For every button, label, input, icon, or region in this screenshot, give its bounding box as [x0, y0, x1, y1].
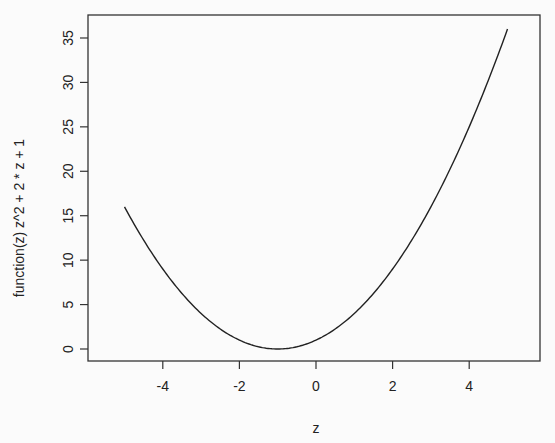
x-tick-label: 0 — [312, 378, 320, 394]
function-curve — [125, 29, 508, 349]
y-tick-label: 30 — [60, 74, 76, 90]
y-tick-label: 15 — [60, 208, 76, 224]
y-tick-label: 20 — [60, 163, 76, 179]
x-axis: -4-2024 — [157, 361, 474, 394]
x-tick-label: 4 — [465, 378, 473, 394]
x-axis-title: z — [313, 420, 320, 436]
x-tick-label: -2 — [233, 378, 246, 394]
y-tick-label: 10 — [60, 252, 76, 268]
y-tick-label: 25 — [60, 119, 76, 135]
y-tick-label: 5 — [60, 300, 76, 308]
y-axis-title: function(z) z^2 + 2 * z + 1 — [11, 139, 27, 298]
plot-box — [88, 15, 540, 361]
chart: -4-2024 05101520253035 z function(z) z^2… — [0, 0, 555, 443]
y-tick-label: 0 — [60, 345, 76, 353]
y-tick-label: 35 — [60, 30, 76, 46]
x-tick-label: -4 — [157, 378, 170, 394]
y-axis: 05101520253035 — [60, 30, 88, 353]
x-tick-label: 2 — [389, 378, 397, 394]
